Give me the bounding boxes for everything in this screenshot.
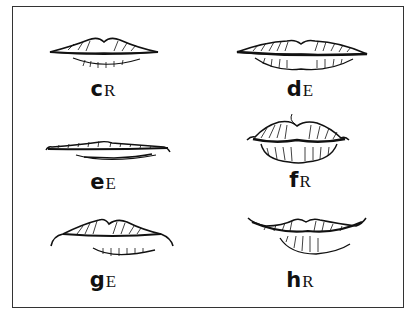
panel-c: cR bbox=[13, 36, 193, 76]
panel-e: eE bbox=[13, 136, 193, 166]
panel-label: eE bbox=[13, 172, 193, 193]
panel-f: fR bbox=[210, 112, 390, 168]
lips-upturned-illustration bbox=[220, 214, 380, 262]
panel-g: gE bbox=[13, 214, 193, 262]
lips-wide-full-illustration bbox=[225, 36, 375, 76]
panel-h: hR bbox=[210, 214, 390, 262]
panel-label: hR bbox=[210, 270, 390, 291]
panel-label: fR bbox=[210, 170, 390, 191]
panel-label: dE bbox=[210, 79, 390, 100]
panel-d: dE bbox=[210, 36, 390, 76]
lips-downturned-illustration bbox=[23, 214, 183, 262]
panel-label: cR bbox=[13, 79, 193, 100]
lips-very-thin-illustration bbox=[28, 136, 178, 166]
lips-thin-smile-illustration bbox=[28, 36, 178, 76]
panel-label: gE bbox=[13, 270, 193, 291]
lips-full-pouty-illustration bbox=[225, 112, 375, 168]
